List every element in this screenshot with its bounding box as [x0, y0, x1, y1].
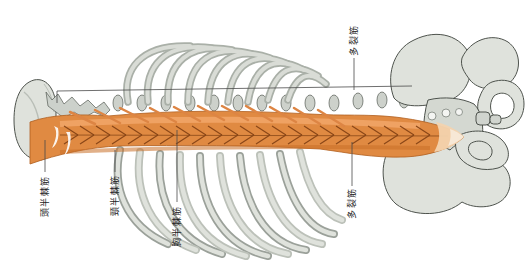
label-multifidus-lumbar: 多裂筋 [348, 187, 357, 219]
label-semispinalis-capitis: 頭半棘筋 [41, 175, 50, 217]
label-semispinalis-thoracis: 胸半棘筋 [173, 205, 182, 247]
anatomical-illustration [0, 0, 529, 268]
label-semispinalis-cervicis: 頸半棘筋 [111, 174, 120, 216]
spinous-processes [113, 92, 409, 111]
transversospinal-muscles [30, 106, 464, 164]
ilium-upper [391, 34, 471, 105]
rib-cage-lower [118, 150, 342, 256]
label-multifidus-span: 多裂筋 [350, 24, 359, 56]
figure-canvas: 頭半棘筋 頸半棘筋 胸半棘筋 多裂筋 多裂筋 [0, 0, 529, 268]
coccyx [476, 112, 501, 125]
rib-cage-upper [127, 46, 326, 102]
